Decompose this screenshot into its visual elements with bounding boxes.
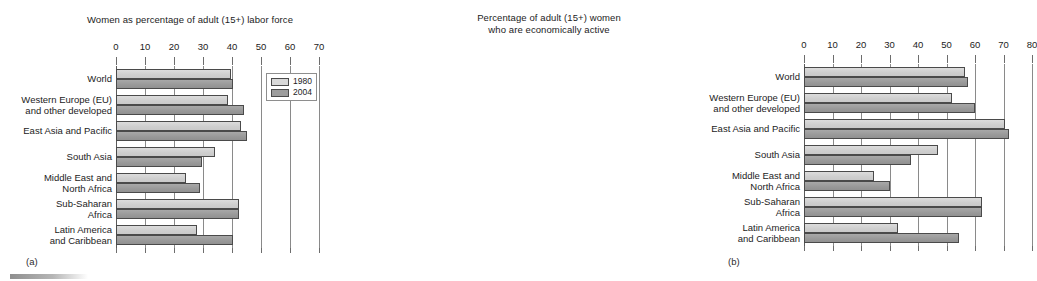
tickmark-20 (861, 55, 862, 63)
category-label-line: Africa (0, 209, 112, 220)
chart-title-line: who are economically active (419, 24, 679, 36)
x-axis-tickmarks-bottom (804, 246, 1032, 252)
category-label-2: East Asia and Pacific (660, 123, 800, 134)
x-tick-label-50: 50 (941, 39, 952, 50)
category-label-line: East Asia and Pacific (0, 125, 112, 136)
bar-2004-cat2 (116, 131, 247, 141)
bar-2004-cat3 (804, 155, 911, 165)
tickmark-40 (918, 55, 919, 63)
legend-item-2004[interactable]: 2004 (271, 88, 312, 97)
category-label-line: Middle East and (0, 172, 112, 183)
x-tick-label-20: 20 (856, 39, 867, 50)
x-axis-tick-labels: 010203040506070 (116, 41, 319, 53)
bar-1980-cat6 (804, 223, 898, 233)
category-label-4: Middle East andNorth Africa (660, 170, 800, 192)
gridline-60 (975, 64, 976, 246)
x-tick-label-70: 70 (998, 39, 1009, 50)
tickmark-bottom-20 (174, 248, 175, 253)
subfigure-a-label: (a) (26, 256, 38, 267)
category-label-line: and Caribbean (660, 233, 800, 244)
bar-1980-cat0 (116, 69, 231, 79)
legend-item-1980[interactable]: 1980 (271, 77, 312, 86)
category-label-0: World (0, 73, 112, 84)
tickmark-30 (890, 55, 891, 63)
x-tick-label-70: 70 (314, 41, 325, 52)
legend-swatch-2004 (271, 89, 289, 97)
tickmark-bottom-0 (804, 246, 805, 251)
tickmark-50 (947, 55, 948, 63)
tickmark-bottom-10 (833, 246, 834, 251)
category-label-line: Western Europe (EU) (660, 92, 800, 103)
bar-1980-cat5 (804, 197, 982, 207)
tickmark-0 (116, 57, 117, 65)
bar-1980-cat3 (116, 147, 215, 157)
tickmark-bottom-30 (890, 246, 891, 251)
bar-1980-cat6 (116, 225, 197, 235)
bar-1980-cat2 (804, 119, 1005, 129)
tickmark-60 (975, 55, 976, 63)
category-label-1: Western Europe (EU)and other developed (0, 94, 112, 116)
tickmark-70 (1004, 55, 1005, 63)
bar-2004-cat3 (116, 157, 202, 167)
x-tick-label-20: 20 (169, 41, 180, 52)
gridline-40 (918, 64, 919, 246)
tickmark-bottom-60 (975, 246, 976, 251)
gridline-30 (203, 66, 204, 248)
category-label-3: South Asia (0, 151, 112, 162)
bar-1980-cat0 (804, 67, 965, 77)
gridline-70 (1004, 64, 1005, 246)
category-label-line: Sub-Saharan (0, 198, 112, 209)
category-label-line: and Caribbean (0, 235, 112, 246)
x-tick-label-10: 10 (140, 41, 151, 52)
chart-title-line: Women as percentage of adult (15+) labor… (50, 14, 330, 26)
category-label-0: World (660, 71, 800, 82)
tickmark-bottom-10 (145, 248, 146, 253)
category-label-line: East Asia and Pacific (660, 123, 800, 134)
category-label-line: Latin America (660, 222, 800, 233)
category-label-6: Latin Americaand Caribbean (0, 224, 112, 246)
x-tick-label-80: 80 (1027, 39, 1037, 50)
x-axis-tickmarks-top (116, 57, 319, 66)
tickmark-70 (319, 57, 320, 65)
tickmark-50 (261, 57, 262, 65)
chart-a-title: Women as percentage of adult (15+) labor… (50, 14, 330, 26)
bar-1980-cat1 (804, 93, 952, 103)
tickmark-20 (174, 57, 175, 65)
bar-1980-cat5 (116, 199, 239, 209)
bar-1980-cat2 (116, 121, 241, 131)
legend-label-2004: 2004 (293, 88, 312, 97)
tickmark-0 (804, 55, 805, 63)
category-label-line: Middle East and (660, 170, 800, 181)
x-tick-label-0: 0 (801, 39, 806, 50)
chart-legend: 19802004 (266, 73, 317, 101)
category-label-line: Africa (660, 207, 800, 218)
x-tick-label-10: 10 (827, 39, 838, 50)
category-label-line: World (0, 73, 112, 84)
bar-2004-cat2 (804, 129, 1009, 139)
category-label-line: North Africa (660, 181, 800, 192)
tickmark-bottom-80 (1032, 246, 1033, 251)
category-label-line: South Asia (0, 151, 112, 162)
tickmark-10 (145, 57, 146, 65)
category-label-line: World (660, 71, 800, 82)
gridline-50 (261, 66, 262, 248)
category-label-5: Sub-SaharanAfrica (0, 198, 112, 220)
category-label-4: Middle East andNorth Africa (0, 172, 112, 194)
category-label-line: Sub-Saharan (660, 196, 800, 207)
x-tick-label-30: 30 (884, 39, 895, 50)
bar-1980-cat4 (804, 171, 874, 181)
legend-swatch-1980 (271, 78, 289, 86)
bar-2004-cat1 (116, 105, 244, 115)
category-label-line: South Asia (660, 149, 800, 160)
tickmark-40 (232, 57, 233, 65)
bar-2004-cat5 (804, 207, 982, 217)
x-axis-tick-labels: 01020304050607080 (804, 39, 1032, 51)
x-axis-tickmarks-top (804, 55, 1032, 64)
bar-2004-cat4 (804, 181, 890, 191)
x-tick-label-30: 30 (198, 41, 209, 52)
chart-b-title: Percentage of adult (15+) womenwho are e… (419, 12, 679, 35)
chart-panel-b: Percentage of adult (15+) womenwho are e… (357, 0, 714, 281)
gridline-50 (947, 64, 948, 246)
bar-2004-cat0 (804, 77, 968, 87)
category-label-6: Latin Americaand Caribbean (660, 222, 800, 244)
